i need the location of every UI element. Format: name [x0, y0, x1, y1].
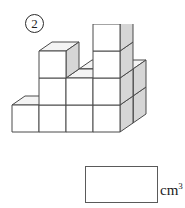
cube-stack-svg: [0, 24, 185, 154]
cube-stack-figure: [0, 24, 185, 154]
answer-area: cm3: [0, 162, 185, 208]
answer-input-box[interactable]: [85, 166, 158, 203]
unit-label: cm3: [160, 182, 183, 198]
unit-exponent-text: 3: [178, 181, 183, 191]
unit-base-text: cm: [160, 182, 178, 198]
worksheet-page: 2 cm3: [0, 0, 185, 208]
cube: [39, 42, 79, 78]
cube-group: [12, 24, 146, 132]
